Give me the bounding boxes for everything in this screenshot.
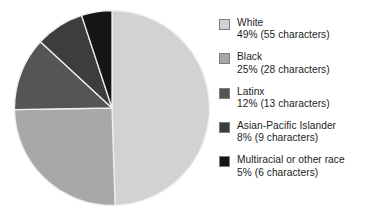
legend-item-label: Asian-Pacific Islander xyxy=(237,120,369,132)
chart-legend: White49% (55 characters)Black25% (28 cha… xyxy=(219,17,369,189)
legend-item[interactable]: Asian-Pacific Islander8% (9 characters) xyxy=(219,120,369,145)
pie-chart-svg xyxy=(14,9,210,207)
pie-slice[interactable] xyxy=(112,11,209,206)
legend-item-label: Black xyxy=(237,51,369,63)
legend-item-label: Latinx xyxy=(237,86,369,98)
legend-color-swatch xyxy=(219,122,230,133)
legend-item[interactable]: White49% (55 characters) xyxy=(219,17,369,42)
legend-color-swatch xyxy=(219,156,230,167)
legend-item[interactable]: Latinx12% (13 characters) xyxy=(219,86,369,111)
pie-chart xyxy=(14,9,210,207)
legend-item-value: 8% (9 characters) xyxy=(237,132,369,144)
legend-item-value: 25% (28 characters) xyxy=(237,64,369,76)
pie-slice[interactable] xyxy=(15,108,116,205)
pie-chart-figure: White49% (55 characters)Black25% (28 cha… xyxy=(0,0,371,217)
legend-color-swatch xyxy=(219,88,230,99)
legend-item[interactable]: Multiracial or other race5% (6 character… xyxy=(219,154,369,179)
legend-item[interactable]: Black25% (28 characters) xyxy=(219,51,369,76)
legend-color-swatch xyxy=(219,53,230,64)
legend-item-label: Multiracial or other race xyxy=(237,154,369,166)
pie-slice-group xyxy=(14,11,209,206)
legend-item-label: White xyxy=(237,17,369,29)
legend-color-swatch xyxy=(219,19,230,30)
legend-item-value: 12% (13 characters) xyxy=(237,98,369,110)
legend-item-value: 5% (6 characters) xyxy=(237,167,369,179)
legend-item-value: 49% (55 characters) xyxy=(237,29,369,41)
